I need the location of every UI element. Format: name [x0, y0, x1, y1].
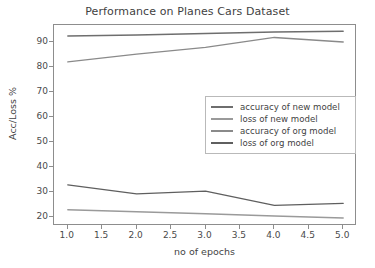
x-tick-label: 2.0: [121, 230, 151, 240]
x-axis-tick-marks: [53, 225, 356, 229]
x-tick-label: 5.0: [327, 230, 357, 240]
x-tick-mark: [273, 225, 274, 229]
x-tick-label: 1.0: [52, 230, 82, 240]
x-tick-mark: [170, 225, 171, 229]
legend-item: loss of org model: [210, 137, 350, 149]
legend-label: loss of new model: [240, 113, 318, 125]
x-axis-label: no of epochs: [53, 246, 356, 257]
x-tick-label: 4.0: [258, 230, 288, 240]
x-tick-label: 1.5: [86, 230, 116, 240]
legend-label: accuracy of org model: [240, 125, 336, 137]
series-line: [68, 185, 343, 205]
x-axis-tick-labels: 1.01.52.02.53.03.54.04.55.0: [53, 230, 356, 244]
series-line: [68, 210, 343, 218]
y-tick-label: 90: [28, 36, 48, 46]
y-tick-label: 70: [28, 86, 48, 96]
x-tick-mark: [342, 225, 343, 229]
legend-item: loss of new model: [210, 113, 350, 125]
legend-label: accuracy of new model: [240, 101, 340, 113]
x-tick-mark: [205, 225, 206, 229]
series-line: [68, 37, 343, 61]
chart-legend: accuracy of new modelloss of new modelac…: [205, 96, 356, 154]
legend-label: loss of org model: [240, 137, 314, 149]
y-tick-label: 60: [28, 111, 48, 121]
x-tick-mark: [101, 225, 102, 229]
y-axis-tick-labels: 2030405060708090: [24, 24, 48, 225]
legend-line-icon: [210, 138, 234, 148]
x-tick-mark: [239, 225, 240, 229]
legend-line-icon: [210, 114, 234, 124]
legend-line-icon: [210, 126, 234, 136]
x-tick-label: 4.5: [293, 230, 323, 240]
chart-title: Performance on Planes Cars Dataset: [0, 5, 375, 18]
y-tick-label: 40: [28, 161, 48, 171]
x-tick-label: 3.0: [190, 230, 220, 240]
x-tick-mark: [308, 225, 309, 229]
x-tick-label: 3.5: [224, 230, 254, 240]
legend-item: accuracy of org model: [210, 125, 350, 137]
series-line: [68, 31, 343, 36]
x-tick-mark: [67, 225, 68, 229]
y-tick-label: 20: [28, 211, 48, 221]
y-tick-label: 30: [28, 186, 48, 196]
legend-item: accuracy of new model: [210, 101, 350, 113]
legend-line-icon: [210, 102, 234, 112]
x-tick-mark: [136, 225, 137, 229]
chart-figure: Performance on Planes Cars Dataset 20304…: [0, 0, 375, 268]
y-tick-label: 50: [28, 136, 48, 146]
y-axis-label: Acc/Loss %: [7, 74, 18, 154]
y-tick-label: 80: [28, 61, 48, 71]
x-tick-label: 2.5: [155, 230, 185, 240]
